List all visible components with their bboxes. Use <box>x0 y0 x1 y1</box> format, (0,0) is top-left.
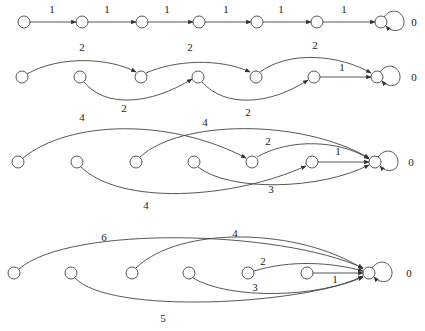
edge-weight-label: 4 <box>79 111 85 123</box>
graph-node <box>306 156 318 168</box>
graph-node <box>242 267 254 279</box>
terminal-node <box>369 156 381 168</box>
terminal-value-label: 0 <box>406 267 412 279</box>
edge-weight-label: 2 <box>265 135 271 147</box>
edge-weight-label: 1 <box>335 145 341 157</box>
graph-node <box>193 16 205 28</box>
graph-node <box>135 71 147 83</box>
edge-arrow <box>23 129 246 158</box>
graph-node <box>74 71 86 83</box>
edge-weight-label: 6 <box>101 231 107 243</box>
terminal-node <box>363 267 375 279</box>
graph-node <box>18 16 30 28</box>
edge-weight-label: 3 <box>268 183 274 195</box>
edge-weight-label: 5 <box>160 312 166 324</box>
graph-node <box>311 16 323 28</box>
edge-weight-label: 1 <box>223 3 229 15</box>
edge-weight-label: 2 <box>260 255 266 267</box>
edge-weight-label: 2 <box>79 41 85 53</box>
edge-weight-label: 3 <box>252 281 258 293</box>
graph-row-1: 1111110 <box>18 3 417 31</box>
graph-node <box>8 267 20 279</box>
graph-node <box>65 267 77 279</box>
graph-node <box>76 16 88 28</box>
edge-weight-label: 1 <box>104 3 110 15</box>
graph-row-4: 6543210 <box>8 227 412 324</box>
graph-node <box>188 156 200 168</box>
graph-node <box>12 156 24 168</box>
edge-weight-label: 1 <box>341 3 347 15</box>
edge-weight-label: 1 <box>332 273 338 285</box>
graph-node <box>16 71 28 83</box>
edge-weight-label: 4 <box>143 199 149 211</box>
graph-node <box>130 156 142 168</box>
edge-weight-label: 2 <box>312 39 318 51</box>
edge-weight-label: 2 <box>121 102 127 114</box>
graph-node <box>126 267 138 279</box>
graph-node <box>71 156 83 168</box>
edge-weight-label: 1 <box>49 3 55 15</box>
edge-arrow <box>260 57 371 73</box>
graph-node <box>136 16 148 28</box>
terminal-value-label: 0 <box>408 156 414 168</box>
graph-node <box>250 71 262 83</box>
edge-weight-label: 1 <box>339 61 345 73</box>
graph-row-2: 2222210 <box>16 39 417 118</box>
graph-node <box>183 267 195 279</box>
terminal-node <box>371 71 383 83</box>
graph-node <box>246 156 258 168</box>
terminal-value-label: 0 <box>411 71 417 83</box>
edge-weight-label: 4 <box>202 116 208 128</box>
graph-node <box>308 71 320 83</box>
graph-node <box>301 267 313 279</box>
edge-weight-label: 2 <box>245 106 251 118</box>
edge-arrow <box>19 238 363 269</box>
edge-weight-label: 1 <box>164 3 170 15</box>
terminal-value-label: 0 <box>411 16 417 28</box>
terminal-node <box>375 16 387 28</box>
edge-weight-label: 1 <box>278 3 284 15</box>
graph-node <box>192 71 204 83</box>
graph-node <box>251 16 263 28</box>
graph-row-3: 4443210 <box>12 111 414 211</box>
graph-diagram: 1111110222221044432106543210 <box>0 0 425 331</box>
edge-weight-label: 4 <box>232 227 238 239</box>
edge-weight-label: 2 <box>187 41 193 53</box>
